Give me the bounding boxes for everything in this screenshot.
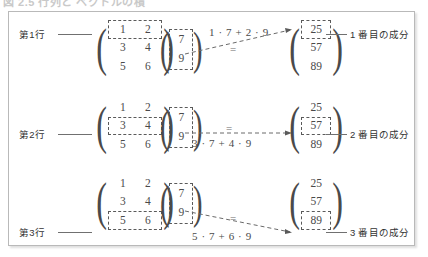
right-paren-icon: ) <box>333 178 344 226</box>
matrix-a-row-3: 5 6 <box>110 57 160 76</box>
result-cell-value: 57 <box>303 120 329 132</box>
result-vector-cells: 25 57 89 <box>303 98 329 154</box>
figure-rows: 第1行 ( 1 2 3 4 5 <box>9 12 414 245</box>
figure-caption: 図 2.5 行列と ベクトルの積 <box>3 0 145 9</box>
row-label-leader <box>58 134 92 135</box>
left-paren-icon: ( <box>96 24 107 72</box>
matrix-a-row-2: 3 4 <box>110 117 160 136</box>
vector-x-row-1: 7 <box>172 108 190 128</box>
result-cell-2: 57 <box>303 39 329 58</box>
vector-x-row-2: 9 <box>172 203 190 223</box>
result-cell-value: 89 <box>303 139 329 151</box>
matrix-cell: 5 <box>110 61 135 73</box>
matrix-cell: 1 <box>110 24 135 36</box>
component-label: 2 番目の成分 <box>350 127 409 141</box>
dot-product-expression: 1 · 7 + 2 · 9 <box>209 26 269 38</box>
figure-caption-strip: 図 2.5 行列と ベクトルの積 <box>0 0 428 9</box>
vector-x-cells: 7 9 <box>172 184 190 223</box>
result-cell-value: 89 <box>303 61 329 73</box>
matrix-a-row-3: 5 6 <box>110 211 160 230</box>
left-paren-icon: ( <box>289 102 300 150</box>
diagram-row: 第1行 ( 1 2 3 4 5 <box>9 14 414 92</box>
left-paren-icon: ( <box>96 178 107 226</box>
result-cell-value: 25 <box>303 102 329 114</box>
matrix-a-row-2: 3 4 <box>110 193 160 212</box>
matrix-cell: 1 <box>110 102 135 114</box>
vector-cell: 9 <box>172 131 190 143</box>
result-cell-1: 25 <box>303 20 329 39</box>
left-paren-icon: ( <box>160 106 170 148</box>
vector-x: ( 7 9 ) <box>157 28 206 70</box>
result-cell-3: 89 <box>303 57 329 76</box>
matrix-cell: 3 <box>110 120 135 132</box>
result-vector: ( 25 57 89 ) <box>286 20 347 76</box>
row-label-leader <box>58 34 92 35</box>
result-cell-2: 57 <box>303 193 329 212</box>
left-paren-icon: ( <box>160 182 170 224</box>
matrix-cell: 5 <box>110 139 135 151</box>
left-paren-icon: ( <box>160 28 170 70</box>
vector-cell: 9 <box>172 53 190 65</box>
row-label-leader <box>58 232 92 233</box>
matrix-a-row-2: 3 4 <box>110 39 160 58</box>
matrix-cell: 5 <box>110 215 135 227</box>
equals-sign: = <box>226 122 232 134</box>
result-cell-1: 25 <box>303 98 329 117</box>
component-label-leader <box>326 34 347 35</box>
result-cell-3: 89 <box>303 211 329 230</box>
component-label: 1 番目の成分 <box>350 27 409 41</box>
right-paren-icon: ) <box>333 24 344 72</box>
component-label-leader <box>326 232 347 233</box>
vector-x-row-2: 9 <box>172 127 190 147</box>
vector-cell: 9 <box>172 207 190 219</box>
left-paren-icon: ( <box>289 178 300 226</box>
equals-sign: = <box>230 212 236 224</box>
matrix-a-cells: 1 2 3 4 5 6 <box>110 98 160 154</box>
result-cell-1: 25 <box>303 174 329 193</box>
figure-frame: 第1行 ( 1 2 3 4 5 <box>8 11 415 246</box>
equals-sign: = <box>230 43 236 55</box>
diagram-row: 第3行 ( 1 2 3 4 5 <box>9 168 414 246</box>
matrix-a-row-1: 1 2 <box>110 98 160 117</box>
right-paren-icon: ) <box>193 28 203 70</box>
matrix-a-row-3: 5 6 <box>110 135 160 154</box>
vector-cell: 7 <box>172 112 190 124</box>
result-vector-cells: 25 57 89 <box>303 174 329 230</box>
matrix-cell: 3 <box>110 42 135 54</box>
diagram-row: 第2行 ( 1 2 3 4 5 <box>9 92 414 170</box>
vector-x-cells: 7 9 <box>172 108 190 147</box>
vector-x-row-1: 7 <box>172 30 190 50</box>
matrix-cell: 3 <box>110 196 135 208</box>
matrix-cell: 1 <box>110 178 135 190</box>
row-label: 第2行 <box>19 127 45 141</box>
result-cell-2: 57 <box>303 117 329 136</box>
matrix-a-cells: 1 2 3 4 5 6 <box>110 174 160 230</box>
vector-cell: 7 <box>172 188 190 200</box>
vector-x: ( 7 9 ) <box>157 182 206 224</box>
vector-x-cells: 7 9 <box>172 30 190 69</box>
result-cell-value: 25 <box>303 178 329 190</box>
component-label-leader <box>326 134 347 135</box>
result-vector: ( 25 57 89 ) <box>286 174 347 230</box>
figure-root: 図 2.5 行列と ベクトルの積 第1行 ( 1 2 3 <box>0 0 428 257</box>
matrix-a-row-1: 1 2 <box>110 20 160 39</box>
right-paren-icon: ) <box>193 182 203 224</box>
row-label: 第3行 <box>19 225 45 239</box>
dot-product-expression: 3 · 7 + 4 · 9 <box>192 137 252 149</box>
row-label: 第1行 <box>19 27 45 41</box>
dot-product-expression: 5 · 7 + 6 · 9 <box>192 230 252 242</box>
vector-cell: 7 <box>172 34 190 46</box>
result-cell-value: 57 <box>303 42 329 54</box>
matrix-a-row-1: 1 2 <box>110 174 160 193</box>
matrix-a-cells: 1 2 3 4 5 6 <box>110 20 160 76</box>
left-paren-icon: ( <box>289 24 300 72</box>
result-cell-value: 89 <box>303 215 329 227</box>
right-paren-icon: ) <box>333 102 344 150</box>
left-paren-icon: ( <box>96 102 107 150</box>
result-cell-value: 57 <box>303 196 329 208</box>
result-vector: ( 25 57 89 ) <box>286 98 347 154</box>
result-cell-3: 89 <box>303 135 329 154</box>
result-vector-cells: 25 57 89 <box>303 20 329 76</box>
vector-x-row-1: 7 <box>172 184 190 204</box>
vector-x-row-2: 9 <box>172 49 190 69</box>
